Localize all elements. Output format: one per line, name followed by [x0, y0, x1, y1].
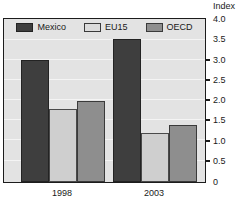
y-axis-tick: [206, 79, 210, 81]
y-axis-label-3-5: 3.5: [213, 34, 226, 44]
y-axis-label-2-5: 2.5: [213, 75, 226, 85]
y-axis-label-2-0: 2.0: [213, 95, 226, 105]
y-axis-label-0-5: 0.5: [213, 156, 226, 166]
y-axis-tick: [206, 119, 210, 121]
chart-legend: Mexico EU15 OECD: [4, 22, 205, 32]
bar-chart-figure: Index Mexico EU15 OECD: [0, 0, 249, 205]
y-axis-label-3-0: 3.0: [213, 55, 226, 65]
y-axis-tick: [206, 140, 210, 142]
plot-area: Mexico EU15 OECD: [3, 18, 206, 183]
y-axis-label-4-0: 4.0: [213, 14, 226, 24]
y-axis-tick: [206, 160, 210, 162]
legend-item-mexico: Mexico: [16, 22, 66, 32]
legend-item-eu15: EU15: [84, 22, 128, 32]
bar-2003-eu15[interactable]: [141, 133, 169, 182]
gridline: [4, 39, 205, 40]
legend-swatch-eu15-icon: [84, 23, 101, 32]
bar-2003-oecd[interactable]: [169, 125, 197, 182]
y-axis-label-0: 0: [213, 177, 218, 187]
bar-1998-oecd[interactable]: [77, 101, 105, 183]
bar-1998-eu15[interactable]: [49, 109, 77, 182]
x-axis-label-2003: 2003: [144, 188, 164, 198]
x-axis-label-1998: 1998: [52, 188, 72, 198]
y-axis-label-1-5: 1.5: [213, 115, 226, 125]
legend-label-eu15: EU15: [105, 22, 128, 32]
bar-1998-mexico[interactable]: [21, 60, 49, 182]
legend-swatch-mexico-icon: [16, 23, 33, 32]
legend-label-mexico: Mexico: [37, 22, 66, 32]
legend-item-oecd: OECD: [146, 22, 193, 32]
y-axis-tick: [206, 99, 210, 101]
legend-swatch-oecd-icon: [146, 23, 163, 32]
legend-label-oecd: OECD: [167, 22, 193, 32]
y-axis-tick: [206, 59, 210, 61]
bar-2003-mexico[interactable]: [113, 39, 141, 182]
y-axis-unit-label: Index: [213, 1, 235, 11]
y-axis-label-1-0: 1.0: [213, 136, 226, 146]
